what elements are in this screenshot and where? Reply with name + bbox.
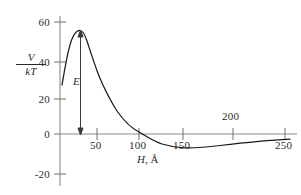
x-axis-title-unit: Å [150,153,158,165]
y-tick-label-neg20: -20 [26,169,50,180]
y-axis-title-denominator: kT [16,65,46,77]
y-tick-label-0: 0 [30,129,50,140]
chart-figure: 60 40 20 0 -20 50 100 150 200 250 V kT H… [0,0,301,195]
potential-energy-curve [62,30,290,147]
x-axis-title-symbol: H, [137,153,148,165]
x-tick-label-250: 250 [275,140,292,151]
y-tick-label-20: 20 [30,94,50,105]
y-axis-title: V kT [16,52,46,77]
energy-barrier-label: E [73,76,80,87]
x-tick-label-100: 100 [129,140,146,151]
x-axis-title: H, Å [137,154,158,165]
y-tick-label-60: 60 [30,17,50,28]
x-tick-label-200: 200 [222,111,239,122]
x-tick-label-150: 150 [173,140,190,151]
x-tick-label-50: 50 [90,140,101,151]
y-axis-title-numerator: V [16,52,46,65]
